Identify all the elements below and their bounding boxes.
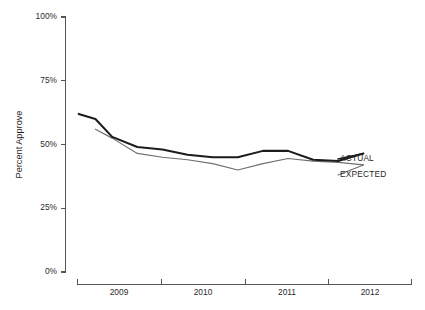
y-tick-label-0: 0% bbox=[45, 266, 58, 276]
y-axis-title: Percent Approve bbox=[14, 111, 24, 179]
series-label-actual: ACTUAL bbox=[340, 153, 374, 163]
x-tick-label-2010: 2010 bbox=[194, 287, 213, 297]
series-line-expected bbox=[95, 129, 363, 170]
y-tick-label-25: 25% bbox=[40, 202, 57, 212]
y-tick-label-75: 75% bbox=[40, 75, 57, 85]
y-tick-label-100: 100% bbox=[36, 11, 58, 21]
series-line-actual bbox=[79, 114, 364, 161]
x-tick-label-2011: 2011 bbox=[278, 287, 296, 297]
y-tick-label-50: 50% bbox=[40, 139, 57, 149]
chart-container: 100% 75% 50% 25% 0% Percent Approve 2009… bbox=[0, 0, 425, 310]
x-tick-label-2009: 2009 bbox=[110, 287, 129, 297]
x-tick-label-2012: 2012 bbox=[361, 287, 380, 297]
series-label-expected: EXPECTED bbox=[340, 169, 386, 179]
approval-line-chart: 100% 75% 50% 25% 0% Percent Approve 2009… bbox=[0, 0, 425, 310]
